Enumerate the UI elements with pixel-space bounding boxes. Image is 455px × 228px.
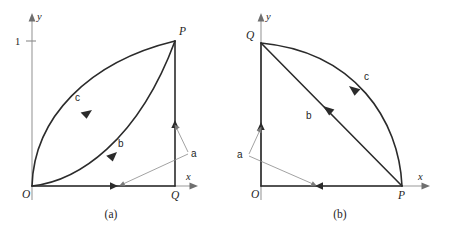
panel-b-path-a-segment-PO: [261, 182, 402, 189]
figure-container: y 1 x c: [0, 0, 455, 228]
x-axis-arrowhead-icon: [422, 183, 431, 190]
panel-b-path-c-label: c: [364, 71, 369, 82]
panel-a-path-a-label: a: [191, 148, 197, 159]
panel-a-point-label-P: P: [178, 25, 186, 37]
panel-a-y-axis: y: [29, 11, 42, 200]
panel-a-point-label-O: O: [22, 188, 31, 200]
panel-a-path-c: c: [32, 41, 175, 186]
y-axis-arrowhead-icon: [258, 13, 265, 22]
path-c-arrowhead-icon: [349, 86, 360, 96]
panel-a-path-c-label: c: [75, 92, 80, 103]
x-axis-arrowhead-icon: [190, 183, 199, 190]
panel-b-caption: (b): [333, 208, 347, 221]
panel-b-path-a-label: a: [237, 149, 243, 160]
path-a-arrowhead-horizontal-icon: [315, 182, 323, 189]
panel-a-path-a-segment-QP: [171, 41, 178, 186]
panel-b-point-label-P: P: [397, 189, 405, 201]
panel-a-y-axis-label: y: [36, 11, 42, 22]
panel-a: y 1 x c: [0, 0, 228, 228]
panel-a-path-a-segment-OQ: [32, 182, 175, 189]
panel-b-x-axis-label: x: [417, 171, 423, 182]
y-axis-arrowhead-icon: [29, 13, 36, 22]
panel-a-y-tick-1: 1: [15, 36, 36, 47]
path-b-arrowhead-icon: [323, 106, 334, 116]
panel-b-point-label-O: O: [251, 188, 260, 200]
path-c-arrowhead-icon: [81, 110, 92, 119]
panel-b-y-axis-label: y: [265, 11, 271, 22]
panel-a-point-label-Q: Q: [171, 189, 180, 201]
path-b-arrowhead-icon: [106, 152, 117, 161]
panel-b: y x c b: [227, 0, 455, 228]
panel-b-path-a-segment-OQ: [257, 43, 264, 186]
path-a-arrowhead-horizontal-icon: [110, 182, 118, 189]
panel-b-path-b-label: b: [306, 110, 312, 121]
panel-a-path-b-label: b: [118, 138, 124, 149]
panel-a-y-tick-label-1: 1: [15, 36, 20, 47]
panel-b-y-axis: y: [258, 11, 271, 200]
panel-a-caption: (a): [105, 208, 118, 221]
panel-a-path-b: b: [32, 41, 175, 186]
panel-b-point-label-Q: Q: [246, 29, 255, 41]
panel-b-path-a-leaders: a: [237, 127, 317, 187]
panel-a-x-axis-label: x: [185, 171, 191, 182]
